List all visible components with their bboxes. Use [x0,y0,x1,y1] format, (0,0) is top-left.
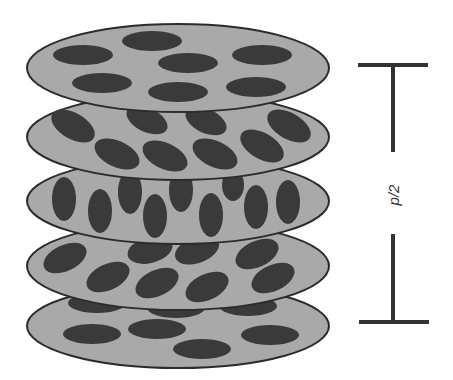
layer-1 [27,24,329,112]
pitch-label: p/2 [385,184,403,206]
